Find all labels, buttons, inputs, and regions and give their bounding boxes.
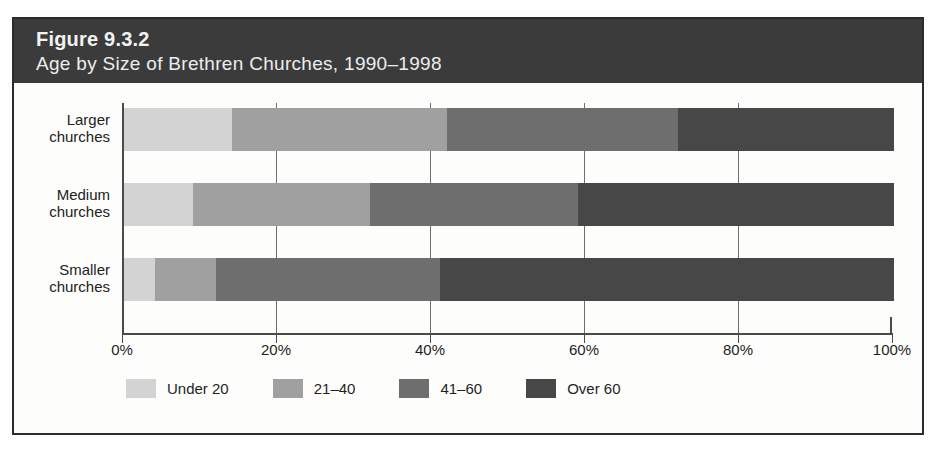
bar-segment-21-40 — [155, 258, 217, 301]
bar-segment-over-60 — [678, 108, 894, 151]
category-label-line: Smaller — [14, 261, 110, 278]
legend-item-under-20: Under 20 — [126, 379, 229, 398]
bar-segment-21-40 — [193, 183, 370, 226]
figure-number: Figure 9.3.2 — [36, 27, 922, 51]
x-axis-tick-label: 20% — [246, 341, 306, 358]
bar-row-larger-churches — [124, 108, 894, 151]
legend-item-41-60: 41–60 — [399, 379, 482, 398]
figure-subtitle: Age by Size of Brethren Churches, 1990–1… — [36, 51, 922, 77]
x-axis-tick-label: 80% — [708, 341, 768, 358]
bar-segment-over-60 — [578, 183, 894, 226]
bar-segment-41-60 — [447, 108, 678, 151]
bar-segment-41-60 — [370, 183, 578, 226]
x-axis-tick-label: 40% — [400, 341, 460, 358]
legend-label: Over 60 — [567, 380, 620, 397]
category-label-line: churches — [14, 128, 110, 145]
chart-legend: Under 2021–4041–60Over 60 — [126, 379, 665, 398]
legend-swatch — [399, 379, 429, 398]
legend-swatch — [126, 379, 156, 398]
bar-row-smaller-churches — [124, 258, 894, 301]
x-axis-tick-label: 100% — [862, 341, 922, 358]
bar-segment-under-20 — [124, 108, 232, 151]
legend-label: 21–40 — [314, 380, 356, 397]
legend-swatch — [526, 379, 556, 398]
category-label-line: Medium — [14, 186, 110, 203]
category-label-line: Larger — [14, 111, 110, 128]
x-axis-tick-label: 0% — [92, 341, 152, 358]
figure-frame: Figure 9.3.2 Age by Size of Brethren Chu… — [12, 17, 924, 435]
legend-label: 41–60 — [440, 380, 482, 397]
category-label-line: churches — [14, 203, 110, 220]
bar-segment-21-40 — [232, 108, 448, 151]
bar-segment-under-20 — [124, 183, 193, 226]
category-label-larger-churches: Largerchurches — [14, 111, 110, 145]
x-axis-line — [122, 333, 892, 335]
x-axis-tick-label: 60% — [554, 341, 614, 358]
category-label-medium-churches: Mediumchurches — [14, 186, 110, 220]
chart-plot-area: 0%20%40%60%80%100% LargerchurchesMediumc… — [14, 83, 922, 433]
category-label-smaller-churches: Smallerchurches — [14, 261, 110, 295]
bar-row-medium-churches — [124, 183, 894, 226]
bar-segment-over-60 — [440, 258, 894, 301]
bar-segment-under-20 — [124, 258, 155, 301]
legend-item-21-40: 21–40 — [273, 379, 356, 398]
category-label-line: churches — [14, 278, 110, 295]
legend-label: Under 20 — [167, 380, 229, 397]
legend-swatch — [273, 379, 303, 398]
legend-item-over-60: Over 60 — [526, 379, 620, 398]
figure-title-band: Figure 9.3.2 Age by Size of Brethren Chu… — [14, 19, 922, 83]
bar-segment-41-60 — [216, 258, 439, 301]
